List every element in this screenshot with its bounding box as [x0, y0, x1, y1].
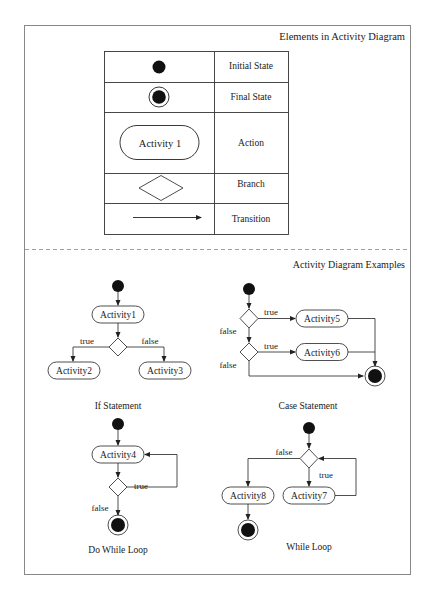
label-final-state: Final State [231, 92, 272, 102]
case-false-label-1: false [220, 326, 237, 336]
while-loop-caption: While Loop [286, 542, 332, 552]
case-activity6: Activity6 [304, 348, 340, 358]
if-true-label: true [80, 336, 94, 346]
elements-section-title: Elements in Activity Diagram [279, 31, 405, 42]
do-while-caption: Do While Loop [88, 545, 148, 555]
dowhile-true-label: true [134, 481, 148, 491]
dowhile-activity4: Activity4 [100, 450, 136, 460]
if-activity3: Activity3 [147, 366, 183, 376]
while-activity8: Activity8 [230, 491, 266, 501]
label-branch: Branch [237, 179, 265, 189]
label-initial-state: Initial State [229, 61, 273, 71]
outer-frame [25, 26, 411, 575]
activity-diagram-figure: Elements in Activity Diagram Activity 1 … [0, 0, 433, 592]
if-statement-diagram [48, 280, 191, 379]
case-true-label-2: true [264, 341, 278, 351]
dowhile-false-label: false [92, 503, 109, 513]
if-false-label: false [142, 336, 159, 346]
while-true-label: true [319, 470, 333, 480]
case-false-label-2: false [220, 360, 237, 370]
case-activity5: Activity5 [304, 314, 340, 324]
branch-diamond-icon [139, 176, 183, 201]
examples-section-title: Activity Diagram Examples [293, 259, 405, 270]
if-statement-caption: If Statement [95, 401, 142, 411]
case-true-label-1: true [264, 307, 278, 317]
do-while-diagram [92, 418, 177, 535]
action-node: Activity 1 [120, 126, 199, 160]
initial-state-icon [153, 61, 166, 74]
final-state-icon [149, 87, 169, 107]
if-activity1: Activity1 [100, 310, 136, 320]
while-loop-diagram [222, 422, 356, 540]
label-action: Action [238, 138, 264, 148]
if-activity2: Activity2 [56, 366, 92, 376]
svg-text:Activity 1: Activity 1 [139, 138, 181, 149]
label-transition: Transition [232, 214, 271, 224]
case-statement-diagram [240, 283, 385, 386]
case-statement-caption: Case Statement [279, 401, 338, 411]
while-activity7: Activity7 [291, 491, 327, 501]
while-false-label: false [276, 447, 293, 457]
